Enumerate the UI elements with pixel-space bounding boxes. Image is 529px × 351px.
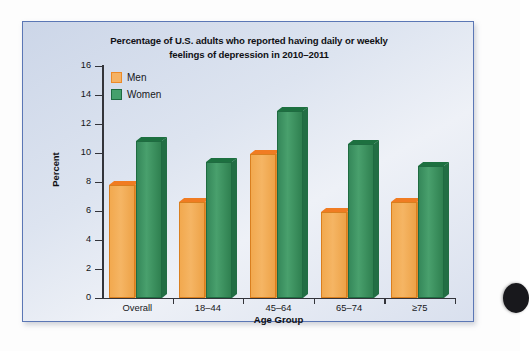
y-axis-tick — [95, 298, 102, 299]
legend-item-men: Men — [111, 69, 161, 86]
y-axis-tick — [95, 211, 102, 212]
y-axis-tick-label: 16 — [71, 60, 91, 70]
legend-label-men: Men — [127, 72, 146, 83]
women-color-swatch — [111, 89, 122, 100]
bar-front-face — [348, 144, 374, 298]
y-axis-tick — [95, 124, 102, 125]
x-axis-tick — [455, 298, 456, 304]
y-axis-tick — [95, 240, 102, 241]
y-axis-tick — [95, 95, 102, 96]
y-axis-tick-label: 4 — [71, 234, 91, 244]
y-axis-title: Percent — [50, 130, 61, 210]
bar-men-0 — [109, 185, 135, 298]
bar-front-face — [206, 162, 232, 298]
bar-women-4 — [418, 166, 444, 298]
y-axis-tick-label: 10 — [71, 147, 91, 157]
bar-front-face — [109, 185, 135, 298]
bar-front-face — [391, 202, 417, 298]
bar-side-face — [444, 162, 449, 298]
chart-figure-panel: Percentage of U.S. adults who reported h… — [22, 21, 474, 322]
bar-women-0 — [136, 141, 162, 298]
y-axis-tick-label: 6 — [71, 205, 91, 215]
bar-front-face — [136, 141, 162, 298]
bar-men-2 — [250, 154, 276, 298]
chart-legend: Men Women — [111, 69, 161, 103]
y-axis-tick-label: 12 — [71, 118, 91, 128]
x-axis-tick-label: 45–64 — [244, 302, 314, 313]
bar-women-3 — [348, 144, 374, 298]
x-axis-tick-label: Overall — [102, 302, 172, 313]
bar-side-face — [232, 158, 237, 298]
x-axis-tick-label: 65–74 — [314, 302, 384, 313]
bar-men-1 — [179, 202, 205, 298]
bar-front-face — [250, 154, 276, 298]
x-axis-tick-label: 18–44 — [173, 302, 243, 313]
bar-men-3 — [321, 212, 347, 298]
bar-front-face — [321, 212, 347, 298]
y-axis-line — [102, 65, 104, 299]
y-axis-tick — [95, 66, 102, 67]
y-axis-tick — [95, 182, 102, 183]
men-color-swatch — [111, 72, 122, 83]
y-axis-tick-label: 14 — [71, 89, 91, 99]
bar-front-face — [179, 202, 205, 298]
bar-women-2 — [277, 111, 303, 298]
bar-women-1 — [206, 162, 232, 298]
x-axis-tick-label: ≥75 — [385, 302, 455, 313]
bar-side-face — [374, 140, 379, 298]
legend-item-women: Women — [111, 86, 161, 103]
plot-area: 0246810121416 Percent Overall18–4445–646… — [23, 22, 475, 323]
bar-front-face — [418, 166, 444, 298]
bar-front-face — [277, 111, 303, 298]
bar-side-face — [162, 137, 167, 298]
bar-side-face — [303, 107, 308, 298]
y-axis-tick-label: 0 — [71, 292, 91, 302]
bar-men-4 — [391, 202, 417, 298]
y-axis-tick-label: 2 — [71, 263, 91, 273]
y-axis-tick-label: 8 — [71, 176, 91, 186]
legend-label-women: Women — [127, 89, 161, 100]
y-axis-tick — [95, 269, 102, 270]
x-axis-title: Age Group — [102, 314, 455, 325]
y-axis-tick — [95, 153, 102, 154]
page-edge-artifact — [503, 283, 529, 313]
